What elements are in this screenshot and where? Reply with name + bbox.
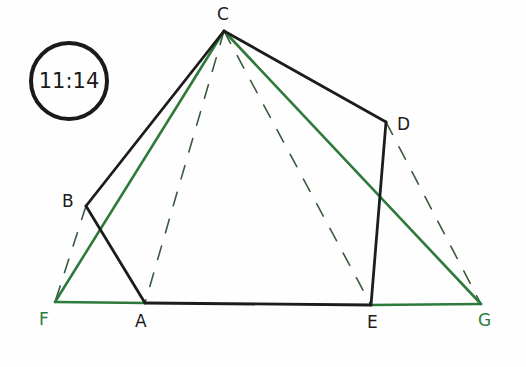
green-line-cg bbox=[224, 31, 481, 304]
geometry-diagram: 11:14 A B C D E F G bbox=[0, 0, 526, 367]
green-triangle-lines bbox=[55, 31, 481, 305]
figure-number-badge: 11:14 bbox=[29, 41, 109, 121]
dashed-line-ca bbox=[145, 31, 224, 303]
black-edge-ed bbox=[371, 122, 386, 305]
black-edge-cb bbox=[86, 31, 224, 206]
vertex-label-c: C bbox=[217, 6, 229, 23]
vertex-label-g: G bbox=[478, 312, 491, 329]
vertex-label-b: B bbox=[62, 193, 74, 210]
black-edge-ba bbox=[86, 206, 145, 303]
vertex-label-a: A bbox=[135, 313, 147, 330]
black-pentagon bbox=[86, 31, 386, 305]
vertex-label-d: D bbox=[397, 116, 410, 133]
green-line-eg bbox=[371, 304, 481, 305]
vertex-label-e: E bbox=[367, 314, 378, 331]
black-edge-ae bbox=[145, 303, 371, 305]
black-edge-dc bbox=[224, 31, 386, 122]
dashed-line-dg bbox=[386, 122, 481, 304]
vertex-label-f: F bbox=[39, 311, 49, 328]
dashed-construction-lines bbox=[55, 31, 481, 305]
green-line-fa bbox=[55, 302, 145, 303]
figure-number-text: 11:14 bbox=[39, 69, 100, 93]
dashed-line-bf bbox=[55, 206, 86, 302]
